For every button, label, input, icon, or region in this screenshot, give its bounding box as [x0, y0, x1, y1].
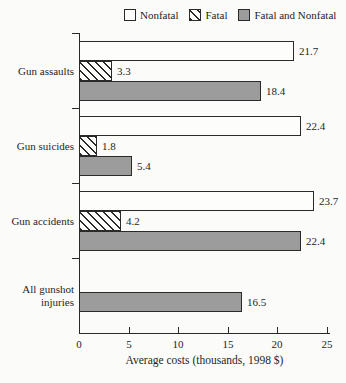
bar-fatal-gun-suicides	[79, 136, 97, 156]
x-axis-title: Average costs (thousands, 1998 $)	[79, 354, 330, 367]
category-label-gun-assaults: Gun assaults	[0, 65, 74, 78]
bar-nonfatal-gun-suicides	[79, 116, 301, 136]
y-axis-tick	[72, 108, 79, 109]
bar-chart-figure: Nonfatal Fatal Fatal and Nonfatal 051015…	[0, 0, 346, 383]
y-axis-tick	[72, 258, 79, 259]
bar-fatal-gun-accidents	[79, 211, 121, 231]
x-tick-label-0: 0	[76, 339, 82, 350]
category-label-all-gunshot-injuries: All gunshot injuries	[0, 283, 74, 309]
value-label-fatal-gun-suicides: 1.8	[102, 141, 116, 152]
bar-fatal-and-nonfatal-gun-suicides	[79, 156, 132, 176]
value-label-fatal-and-nonfatal-gun-assaults: 18.4	[266, 86, 285, 97]
value-label-nonfatal-gun-suicides: 22.4	[306, 121, 325, 132]
x-axis-tick	[178, 327, 179, 333]
x-tick-label-25: 25	[322, 339, 333, 350]
x-axis-tick	[277, 327, 278, 333]
bar-fatal-and-nonfatal-gun-accidents	[79, 231, 301, 251]
x-axis-tick	[327, 327, 328, 333]
value-label-fatal-gun-assaults: 3.3	[117, 66, 131, 77]
value-label-fatal-gun-accidents: 4.2	[126, 216, 140, 227]
x-tick-label-20: 20	[272, 339, 283, 350]
bar-fatal-and-nonfatal-all-gunshot-injuries	[79, 292, 242, 312]
y-axis-tick	[72, 183, 79, 184]
plot-area: 0510152025Gun assaults21.73.318.4Gun sui…	[0, 0, 346, 383]
value-label-nonfatal-gun-assaults: 21.7	[299, 46, 318, 57]
bar-nonfatal-gun-assaults	[79, 41, 294, 61]
x-axis-tick	[129, 327, 130, 333]
y-axis-tick	[72, 33, 79, 34]
category-label-gun-accidents: Gun accidents	[0, 215, 74, 228]
value-label-fatal-and-nonfatal-all-gunshot-injuries: 16.5	[247, 297, 266, 308]
value-label-fatal-and-nonfatal-gun-accidents: 22.4	[306, 236, 325, 247]
value-label-nonfatal-gun-accidents: 23.7	[319, 196, 338, 207]
x-axis-tick	[228, 327, 229, 333]
bar-fatal-and-nonfatal-gun-assaults	[79, 81, 261, 101]
x-tick-label-15: 15	[223, 339, 234, 350]
bar-fatal-gun-assaults	[79, 61, 112, 81]
category-label-gun-suicides: Gun suicides	[0, 140, 74, 153]
value-label-fatal-and-nonfatal-gun-suicides: 5.4	[137, 161, 151, 172]
bar-nonfatal-gun-accidents	[79, 191, 314, 211]
x-tick-label-10: 10	[173, 339, 184, 350]
x-tick-label-5: 5	[126, 339, 132, 350]
x-axis-line	[79, 333, 330, 334]
